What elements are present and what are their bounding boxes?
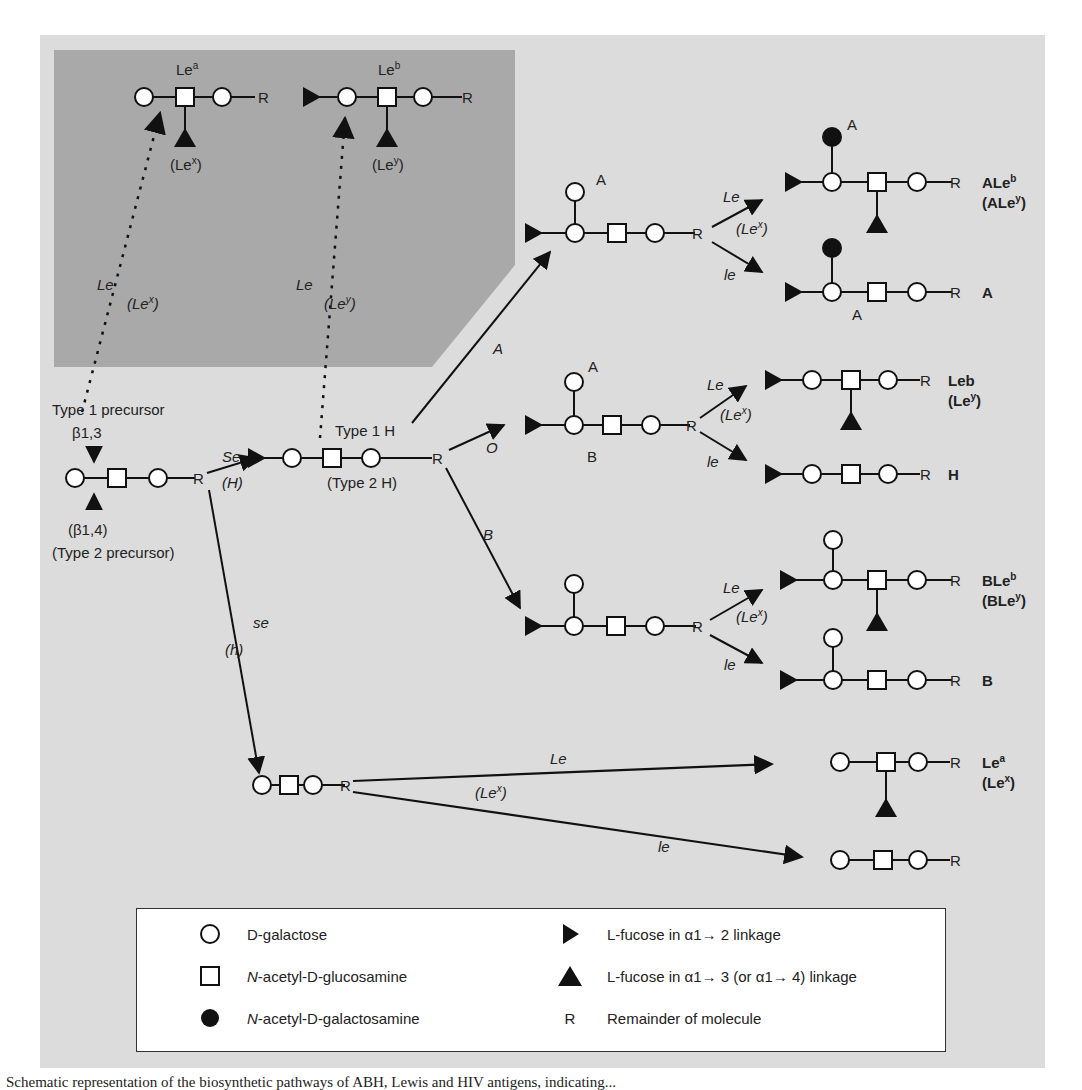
- product-name: Leb: [948, 372, 975, 389]
- se-gene-label: Se: [222, 448, 240, 465]
- le-label: Le: [723, 188, 740, 205]
- product-alt: (Lex): [982, 773, 1015, 791]
- type1-precursor-label: Type 1 precursor: [52, 401, 165, 418]
- legend: D-galactose N-acetyl-D-glucosamine N-ace…: [136, 908, 946, 1052]
- b-gene-label: B: [483, 526, 493, 543]
- le-label: Le: [723, 579, 740, 596]
- beta13-label: β1,3: [72, 424, 101, 441]
- lex-label: (Lex): [720, 405, 752, 423]
- legend-item-galactose: D-galactose: [197, 921, 327, 947]
- o-gene-label: O: [486, 439, 498, 456]
- legend-label: N-acetyl-D-glucosamine: [247, 968, 407, 985]
- open-circle-icon: [197, 921, 223, 947]
- legend-item-fucose-a13: L-fucose in α1→ 3 (or α1→ 4) linkage: [557, 963, 857, 989]
- r-label: R: [258, 89, 269, 106]
- le-label: Le: [550, 750, 567, 767]
- up-triangle-icon: [557, 963, 583, 989]
- legend-label: L-fucose in α1→ 2 linkage: [607, 926, 781, 943]
- le-recessive-label: le: [707, 453, 719, 470]
- r-label: R: [950, 754, 961, 771]
- r-label: R: [950, 284, 961, 301]
- legend-label: N-acetyl-D-galactosamine: [247, 1010, 420, 1027]
- r-label: R: [920, 466, 931, 483]
- a-node-label: A: [596, 171, 606, 188]
- ley-label: (Ley): [372, 155, 404, 173]
- lex-label: (Lex): [736, 607, 768, 625]
- le-recessive-label: le: [724, 656, 736, 673]
- product-name: B: [982, 672, 993, 689]
- legend-item-remainder: R Remainder of molecule: [557, 1005, 761, 1031]
- lex-label: (Lex): [736, 219, 768, 237]
- inset-arrow2-alt: (Ley): [324, 294, 356, 312]
- a-node-label: A: [847, 116, 857, 133]
- filled-circle-icon: [197, 1005, 223, 1031]
- inset-arrow1-gene: Le: [97, 276, 114, 293]
- product-name: A: [982, 284, 993, 301]
- legend-item-galnac: N-acetyl-D-galactosamine: [197, 1005, 420, 1031]
- o-node-top-label: A: [588, 358, 598, 375]
- legend-item-fucose-a12: L-fucose in α1→ 2 linkage: [557, 921, 781, 947]
- open-square-icon: [197, 963, 223, 989]
- r-label: R: [920, 372, 931, 389]
- lex-label: (Lex): [475, 783, 507, 801]
- r-label: R: [950, 852, 961, 869]
- type1-h-label: Type 1 H: [335, 422, 395, 439]
- r-label: R: [692, 618, 703, 635]
- inset-arrow1-alt: (Lex): [127, 294, 159, 312]
- lex-label: (Lex): [170, 155, 202, 173]
- r-label: R: [950, 672, 961, 689]
- a-gene-label: A: [492, 340, 503, 357]
- r-label: R: [340, 777, 351, 794]
- le-label: Le: [707, 376, 724, 393]
- r-label: R: [432, 450, 443, 467]
- legend-item-glcnac: N-acetyl-D-glucosamine: [197, 963, 407, 989]
- le-recessive-label: le: [658, 838, 670, 855]
- type2-h-label: (Type 2 H): [327, 474, 397, 491]
- a-node-label: A: [852, 306, 862, 323]
- legend-label: L-fucose in α1→ 3 (or α1→ 4) linkage: [607, 968, 857, 985]
- product-alt: (Ley): [948, 391, 981, 409]
- le-recessive-label: le: [724, 266, 736, 283]
- legend-label: D-galactose: [247, 926, 327, 943]
- r-label: R: [950, 174, 961, 191]
- r-label: R: [462, 89, 473, 106]
- r-label: R: [686, 417, 697, 434]
- figure-caption: Schematic representation of the biosynth…: [6, 1074, 616, 1090]
- type2-precursor-label: (Type 2 precursor): [52, 544, 175, 561]
- beta14-label: (β1,4): [68, 521, 107, 538]
- legend-label: Remainder of molecule: [607, 1010, 761, 1027]
- r-label: R: [193, 470, 204, 487]
- r-label: R: [692, 225, 703, 242]
- r-label: R: [950, 572, 961, 589]
- h-recessive-label: (h): [225, 641, 243, 658]
- o-node-bottom-label: B: [587, 448, 597, 465]
- se-recessive-label: se: [253, 614, 269, 631]
- right-triangle-icon: [557, 921, 583, 947]
- h-gene-label: (H): [222, 474, 243, 491]
- inset-arrow2-gene: Le: [296, 276, 313, 293]
- r-symbol: R: [557, 1005, 583, 1031]
- product-name: H: [948, 466, 959, 483]
